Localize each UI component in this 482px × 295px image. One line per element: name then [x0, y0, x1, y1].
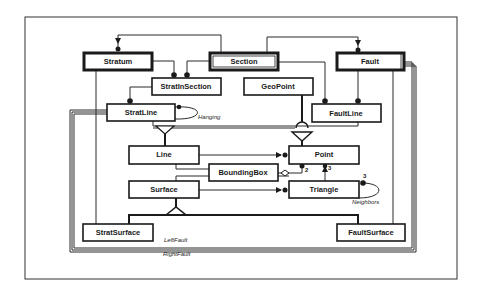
- role-rightfault: RightFault: [163, 251, 191, 257]
- dot-neighbors: [360, 180, 366, 186]
- dot-stratline: [127, 98, 133, 104]
- class-faultsurface[interactable]: FaultSurface: [337, 224, 405, 241]
- class-stratum-label: Stratum: [104, 57, 133, 66]
- class-stratsurface[interactable]: StratSurface: [83, 224, 153, 241]
- class-faultline[interactable]: FaultLine: [312, 104, 381, 122]
- class-stratline-label: StratLine: [125, 108, 158, 117]
- role-leftfault: LeftFault: [164, 237, 188, 243]
- class-stratsurface-label: StratSurface: [96, 228, 141, 237]
- class-stratinsection-label: StratInSection: [161, 82, 212, 91]
- dot-faultline-1: [322, 98, 328, 104]
- class-faultline-label: FaultLine: [329, 109, 362, 118]
- class-stratinsection[interactable]: StratInSection: [152, 78, 221, 95]
- class-point[interactable]: Point: [289, 146, 359, 164]
- class-line-label: Line: [156, 150, 171, 159]
- class-fault[interactable]: Fault: [337, 53, 404, 70]
- class-stratum[interactable]: Stratum: [84, 53, 152, 70]
- class-surface-label: Surface: [150, 185, 178, 194]
- class-boundingbox[interactable]: BoundingBox: [209, 164, 278, 181]
- class-line[interactable]: Line: [129, 146, 199, 164]
- class-stratline[interactable]: StratLine: [107, 104, 175, 121]
- role-hanging: Hanging: [198, 114, 221, 120]
- class-boundingbox-label: BoundingBox: [218, 168, 268, 177]
- class-triangle[interactable]: Triangle: [289, 181, 359, 198]
- dot-line-point: [283, 153, 288, 158]
- class-fault-label: Fault: [361, 57, 379, 66]
- role-neighbors: Neighbors: [352, 199, 379, 205]
- dot-stratum-top: [116, 47, 121, 52]
- class-geopoint-label: GeoPoint: [261, 82, 295, 91]
- dot-sis-1: [171, 72, 177, 78]
- class-triangle-label: Triangle: [310, 185, 339, 194]
- class-section-label: Section: [230, 57, 258, 66]
- class-geopoint[interactable]: GeoPoint: [244, 78, 313, 95]
- dot-faultline-2: [355, 98, 361, 104]
- object-model-diagram: 2 3 3 Stratum Section Fault StratInSecti…: [0, 0, 482, 295]
- dot-surface-triangle: [283, 188, 288, 193]
- dot-hanging: [177, 105, 182, 110]
- class-surface[interactable]: Surface: [129, 181, 199, 198]
- class-point-label: Point: [315, 150, 334, 159]
- dot-sis-2: [184, 72, 190, 78]
- class-section[interactable]: Section: [210, 53, 278, 70]
- class-faultsurface-label: FaultSurface: [348, 228, 393, 237]
